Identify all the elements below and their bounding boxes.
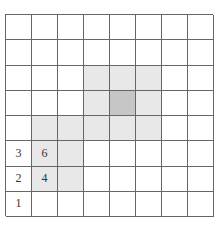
grid-cell-r3-c2 bbox=[58, 91, 84, 116]
grid-cell-r3-c6 bbox=[162, 91, 188, 116]
grid-cell-r3-c7 bbox=[188, 91, 214, 116]
grid-cell-r1-c6 bbox=[162, 40, 188, 65]
grid-cell-r3-c0 bbox=[6, 91, 32, 116]
grid-cell-r5-c2 bbox=[58, 141, 84, 166]
grid-cell-r1-c5 bbox=[136, 40, 162, 65]
grid-cell-r2-c5 bbox=[136, 66, 162, 91]
grid-cell-r0-c3 bbox=[84, 15, 110, 40]
grid-cell-r0-c7 bbox=[188, 15, 214, 40]
grid-cell-r6-c5 bbox=[136, 167, 162, 192]
grid-cell-r2-c1 bbox=[32, 66, 58, 91]
grid-cell-r0-c1 bbox=[32, 15, 58, 40]
grid-cell-r0-c4 bbox=[110, 15, 136, 40]
grid-cell-r7-c1 bbox=[32, 192, 58, 217]
grid-cell-r2-c4 bbox=[110, 66, 136, 91]
grid-cell-r4-c3 bbox=[84, 116, 110, 141]
grid-cell-r2-c3 bbox=[84, 66, 110, 91]
grid-cell-r7-c2 bbox=[58, 192, 84, 217]
grid-cell-r4-c4 bbox=[110, 116, 136, 141]
grid-cell-r6-c4 bbox=[110, 167, 136, 192]
grid-cell-r6-c6 bbox=[162, 167, 188, 192]
grid-cell-r1-c7 bbox=[188, 40, 214, 65]
grid-cell-r6-c2 bbox=[58, 167, 84, 192]
grid-cell-r4-c5 bbox=[136, 116, 162, 141]
grid-cell-r1-c4 bbox=[110, 40, 136, 65]
grid-cell-r3-c3 bbox=[84, 91, 110, 116]
grid-cell-r0-c6 bbox=[162, 15, 188, 40]
grid-cell-r7-c0: 1 bbox=[6, 192, 32, 217]
grid-cell-r4-c0 bbox=[6, 116, 32, 141]
grid-cell-r0-c2 bbox=[58, 15, 84, 40]
grid-cell-r0-c0 bbox=[6, 15, 32, 40]
grid-cell-r1-c0 bbox=[6, 40, 32, 65]
grid-cell-r6-c1: 4 bbox=[32, 167, 58, 192]
grid-cell-r3-c1 bbox=[32, 91, 58, 116]
grid-cell-r1-c1 bbox=[32, 40, 58, 65]
grid-cell-r7-c7 bbox=[188, 192, 214, 217]
grid-cell-r4-c7 bbox=[188, 116, 214, 141]
grid-cell-r6-c7 bbox=[188, 167, 214, 192]
grid-cell-r0-c5 bbox=[136, 15, 162, 40]
grid-cell-r7-c4 bbox=[110, 192, 136, 217]
grid-cell-r5-c0: 3 bbox=[6, 141, 32, 166]
grid-cell-r6-c0: 2 bbox=[6, 167, 32, 192]
grid-cell-r2-c6 bbox=[162, 66, 188, 91]
number-grid: 36241 bbox=[5, 14, 213, 216]
grid-cell-r2-c0 bbox=[6, 66, 32, 91]
grid-cell-r4-c1 bbox=[32, 116, 58, 141]
grid-cell-r5-c5 bbox=[136, 141, 162, 166]
grid-cell-r4-c6 bbox=[162, 116, 188, 141]
grid-cell-r1-c2 bbox=[58, 40, 84, 65]
grid-cell-r5-c1: 6 bbox=[32, 141, 58, 166]
grid-cell-r7-c6 bbox=[162, 192, 188, 217]
grid-cell-r4-c2 bbox=[58, 116, 84, 141]
grid-cell-r5-c3 bbox=[84, 141, 110, 166]
grid-cell-r7-c3 bbox=[84, 192, 110, 217]
grid-cell-r6-c3 bbox=[84, 167, 110, 192]
grid-cell-r3-c4 bbox=[110, 91, 136, 116]
grid-cell-r2-c2 bbox=[58, 66, 84, 91]
grid-cell-r5-c6 bbox=[162, 141, 188, 166]
grid-cell-r1-c3 bbox=[84, 40, 110, 65]
grid-cell-r5-c4 bbox=[110, 141, 136, 166]
grid-cell-r7-c5 bbox=[136, 192, 162, 217]
grid-cell-r2-c7 bbox=[188, 66, 214, 91]
grid-cell-r5-c7 bbox=[188, 141, 214, 166]
grid-cell-r3-c5 bbox=[136, 91, 162, 116]
